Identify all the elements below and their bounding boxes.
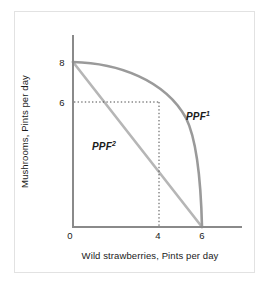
ppf1-label-text: PPF — [186, 111, 206, 122]
x-axis-title: Wild strawberries, Pints per day — [60, 250, 240, 261]
y-axis-title: Mushrooms, Pints per day — [19, 62, 30, 202]
ppf1-series-label: PPF1 — [186, 110, 210, 122]
ppf-chart — [0, 0, 269, 290]
x-tick-label-6: 6 — [194, 230, 210, 241]
ppf2-label-text: PPF — [92, 141, 112, 152]
y-tick-label-6: 6 — [54, 97, 70, 108]
ppf2-series-label: PPF2 — [92, 140, 116, 152]
y-tick-label-8: 8 — [54, 57, 70, 68]
x-tick-label-4: 4 — [150, 230, 166, 241]
ppf1-label-superscript: 1 — [206, 110, 210, 117]
x-tick-label-0: 0 — [62, 230, 78, 241]
ppf2-label-superscript: 2 — [112, 140, 116, 147]
